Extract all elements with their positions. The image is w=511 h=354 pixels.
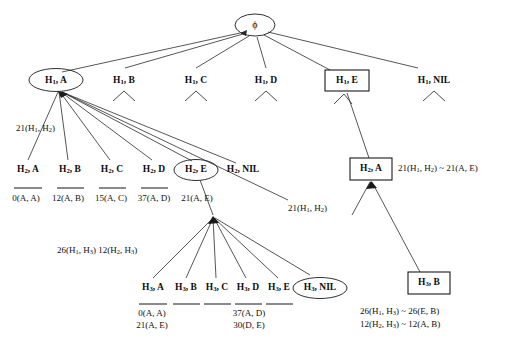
node-h3-d-label: H3, D xyxy=(237,282,260,292)
node-h3-a[interactable]: H3, A xyxy=(139,282,167,304)
search-tree-svg: ϕ H1, A H1, B H1, C H1, D xyxy=(0,0,511,354)
edge-h3-e xyxy=(214,218,278,278)
node-h1-b-label: H1, B xyxy=(113,75,136,85)
edges-root-to-h1 xyxy=(62,30,418,72)
node-h2-c[interactable]: H2, C xyxy=(99,164,126,188)
node-h3-e-label: H3, E xyxy=(268,282,290,292)
edges-h3-fan xyxy=(153,216,310,278)
edge-root-h1e xyxy=(264,35,330,70)
h3-row: H3, A H3, B H3, C H3, D H3, E H3, NI xyxy=(139,278,347,305)
h2-row-left: H2, A H2, B H2, C H2, D H2, E H2, NIL xyxy=(14,160,259,189)
annot-h2-cost-0: 0(A, A) xyxy=(12,193,40,203)
annot-h2-cost-2: 15(A, C) xyxy=(95,193,127,203)
node-h3-b-boxed-label: H3, B xyxy=(418,277,441,287)
annot-h3b-note-2: 12(H2, H3) ~ 12(A, B) xyxy=(360,319,440,329)
edge-root-h1a xyxy=(62,33,240,72)
root-phi-label: ϕ xyxy=(252,19,257,30)
edge-h3-b xyxy=(186,218,213,278)
node-h2-d-label: H2, D xyxy=(143,164,166,174)
caret-icon-h1d xyxy=(255,91,277,101)
node-h2-a-boxed-label: H2, A xyxy=(360,163,382,173)
node-h2-b[interactable]: H2, B xyxy=(57,164,84,188)
annot-h2-cost-3: 37(A, D) xyxy=(138,193,171,203)
node-h1-a[interactable]: H1, A xyxy=(29,69,83,92)
caret-icon-h1b xyxy=(113,91,135,101)
edge-h3-c xyxy=(213,218,216,278)
node-h1-nil-label: H1, NIL xyxy=(418,75,450,85)
node-h2-d[interactable]: H2, D xyxy=(141,164,168,188)
node-h3-b[interactable]: H3, B xyxy=(173,282,200,304)
edge-h1a-h2nil-cost xyxy=(62,92,288,200)
edge-h1e-h2a-box xyxy=(347,93,369,158)
edge-root-h1d xyxy=(257,37,266,68)
h1-row: H1, A H1, B H1, C H1, D H1, E xyxy=(29,69,450,105)
annot-h1a-cost: 21(H1, H2) xyxy=(16,123,55,133)
node-h1-d-label: H1, D xyxy=(255,75,278,85)
edges-h2a-box-children xyxy=(352,181,420,272)
annot-h3-cost-a-2: 21(A, E) xyxy=(136,320,168,330)
node-h3-b-boxed[interactable]: H3, B xyxy=(408,272,450,294)
root-phi-node[interactable]: ϕ xyxy=(235,14,275,36)
caret-icon-h1nil xyxy=(423,91,445,101)
edge-h1a-h2e xyxy=(62,92,192,161)
annot-h2nil-cost: 21(H1, H2) xyxy=(288,203,327,213)
edge-h1a-h2c xyxy=(60,92,110,160)
diagram-canvas: ϕ H1, A H1, B H1, C H1, D xyxy=(0,0,511,354)
caret-icon-h1c xyxy=(185,91,207,101)
node-h3-d[interactable]: H3, D xyxy=(235,282,262,304)
edge-h3-a xyxy=(153,218,213,278)
edge-h1a-h2d xyxy=(61,92,152,160)
edges-h1a-to-h2 xyxy=(28,91,288,200)
annot-h3-parent-costs: 26(H1, H3) 12(H2, H3) xyxy=(57,245,137,255)
annot-h2a-box-note: 21(H1, H2) ~ 21(A, E) xyxy=(398,163,478,173)
edge-h1a-h2b xyxy=(59,92,68,160)
node-h2-a-label: H2, A xyxy=(17,164,39,174)
edge-h1a-h2nil xyxy=(62,92,236,163)
annot-h3b-note-1: 26(H1, H3) ~ 26(E, B) xyxy=(360,306,439,316)
node-h3-b-label: H3, B xyxy=(175,282,198,292)
node-h3-a-label: H3, A xyxy=(142,282,164,292)
node-h1-e[interactable]: H1, E xyxy=(325,70,369,104)
node-h1-c[interactable]: H1, C xyxy=(185,75,208,101)
node-h1-a-label: H1, A xyxy=(45,75,67,85)
h3-cost-labels: 0(A, A) 21(A, E) 37(A, D) 30(D, E) xyxy=(136,308,265,330)
h2abox-arrowhead xyxy=(366,181,377,189)
node-h1-d[interactable]: H1, D xyxy=(255,75,278,101)
edge-root-h1b xyxy=(125,34,243,68)
edge-root-h1nil xyxy=(268,32,418,68)
node-h2-nil-label: H2, NIL xyxy=(227,164,259,174)
node-h2-e[interactable]: H2, E xyxy=(174,160,218,181)
annot-h2-cost-1: 12(A, B) xyxy=(52,193,84,203)
h2-cost-row: 0(A, A) 12(A, B) 15(A, C) 37(A, D) 21(A,… xyxy=(12,193,213,203)
node-h3-nil[interactable]: H3, NIL xyxy=(293,278,347,299)
node-h2-e-label: H2, E xyxy=(185,164,207,174)
node-h3-c[interactable]: H3, C xyxy=(204,282,231,304)
annot-h3-cost-d-1: 37(A, D) xyxy=(233,308,266,318)
h3-fan-arrowhead xyxy=(208,216,219,224)
node-h2-b-label: H2, B xyxy=(59,164,82,174)
node-h1-nil[interactable]: H1, NIL xyxy=(418,75,450,101)
node-h1-e-label: H1, E xyxy=(336,75,358,85)
node-h1-c-label: H1, C xyxy=(185,75,208,85)
annot-h3-cost-d-2: 30(D, E) xyxy=(233,320,265,330)
edge-h2abox-h3b xyxy=(372,182,420,272)
node-h2-nil[interactable]: H2, NIL xyxy=(227,164,259,174)
node-h2-a[interactable]: H2, A xyxy=(14,164,42,188)
node-h3-e[interactable]: H3, E xyxy=(266,282,293,304)
node-h2-a-boxed[interactable]: H2, A xyxy=(350,158,392,180)
node-h2-c-label: H2, C xyxy=(101,164,124,174)
node-h3-nil-label: H3, NIL xyxy=(304,282,336,292)
node-h1-b[interactable]: H1, B xyxy=(113,75,136,101)
annot-h3-cost-a-1: 0(A, A) xyxy=(138,308,166,318)
node-h3-c-label: H3, C xyxy=(206,282,229,292)
